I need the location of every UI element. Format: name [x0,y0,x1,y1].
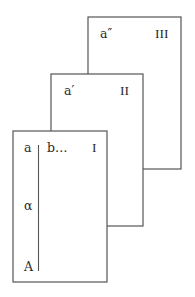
panel-i-numeral: I [92,140,97,155]
panel-i-margin-label-alpha: α [24,198,33,213]
panel-i-header-continuation: b… [47,140,68,155]
panel-ii-corner-label: a′ [64,83,74,98]
panel-ii-numeral: II [120,83,129,98]
panel-iii-corner-label: a″ [100,26,112,41]
panel-i: a b… I α A [13,131,107,282]
panel-iii-numeral: III [155,26,169,41]
panel-i-margin-label-a-capital: A [23,259,34,274]
panel-i-corner-label: a [24,140,32,155]
stacked-panels-diagram: a″ III a′ II a b… I α A [0,0,195,297]
